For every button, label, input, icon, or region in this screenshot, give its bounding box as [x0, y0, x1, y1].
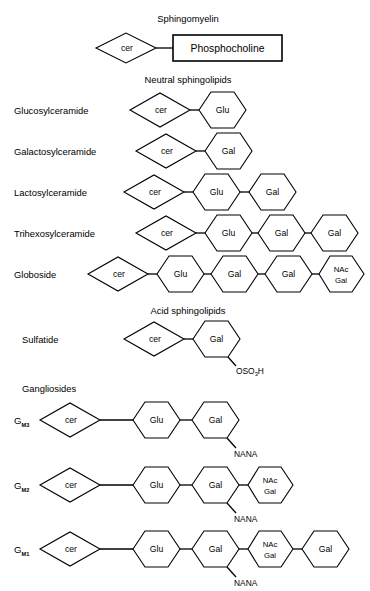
bond-substituent: [227, 438, 236, 448]
node-label-glu: Glu: [222, 228, 236, 238]
bond-substituent: [228, 357, 236, 366]
node-label-glu: Glu: [210, 187, 224, 197]
row-trihexosylceramide: Trihexosylceramide cer Glu Gal Gal: [14, 215, 358, 251]
row-label-sulfatide: Sulfatide: [22, 334, 58, 345]
nacgal-hexagon: [319, 256, 364, 292]
heading-gangliosides: Gangliosides: [22, 383, 77, 394]
node-label-cer: cer: [149, 334, 161, 344]
heading-sphingomyelin: Sphingomyelin: [157, 13, 219, 24]
row-sulfatide: Sulfatide cer Gal OSO3H: [22, 321, 264, 377]
node-label-nacgal: Gal: [264, 487, 276, 496]
node-label-nacgal: Gal: [264, 551, 276, 560]
substituent-nana: NANA: [234, 449, 258, 459]
node-label-cer: cer: [65, 415, 77, 425]
row-glucosylceramide: Glucosylceramide cer Glu: [14, 92, 246, 128]
row-sphingomyelin: cer Phosphocholine: [96, 33, 282, 63]
substituent-oso3h: OSO3H: [236, 366, 264, 377]
sphingolipid-structures-figure: Sphingomyelin cer Phosphocholine Neutral…: [0, 0, 370, 591]
row-label-gm3: GM3: [14, 415, 29, 428]
node-label-gal: Gal: [209, 480, 222, 490]
node-label-gal: Gal: [209, 415, 222, 425]
nacgal-hexagon: [248, 467, 293, 503]
row-label-trihexosylceramide: Trihexosylceramide: [14, 228, 95, 239]
row-galactosylceramide: Galactosylceramide cer Gal: [14, 133, 252, 169]
node-label-glu: Glu: [150, 415, 164, 425]
node-label-nac: NAc: [263, 540, 278, 549]
row-globoside: Globoside cer Glu Gal Gal NAc Gal: [14, 256, 364, 292]
nacgal-hexagon: [248, 531, 293, 567]
node-label-glu: Glu: [216, 105, 230, 115]
row-label-lactosylceramide: Lactosylceramide: [14, 187, 87, 198]
substituent-nana: NANA: [234, 578, 258, 588]
node-label-cer: cer: [121, 43, 133, 53]
node-label-gal: Gal: [275, 228, 288, 238]
row-label-galactosylceramide: Galactosylceramide: [14, 146, 96, 157]
bond-substituent: [227, 503, 236, 513]
node-label-gal: Gal: [266, 187, 279, 197]
node-label-cer: cer: [155, 105, 167, 115]
row-label-globoside: Globoside: [14, 269, 56, 280]
node-label-cer: cer: [65, 544, 77, 554]
node-label-nacgal: Gal: [335, 276, 347, 285]
bond-substituent: [227, 567, 236, 577]
node-label-cer: cer: [161, 228, 173, 238]
row-gm3: GM3 cer Glu Gal NANA: [14, 402, 258, 459]
row-label-gm1: GM1: [14, 544, 29, 557]
substituent-nana: NANA: [234, 514, 258, 524]
node-label-glu: Glu: [174, 269, 188, 279]
node-label-cer: cer: [149, 187, 161, 197]
heading-acid-sphingolipids: Acid sphingolipids: [150, 305, 225, 316]
node-label-gal: Gal: [209, 544, 222, 554]
row-label-gm2: GM2: [14, 480, 29, 493]
node-label-gal: Gal: [228, 269, 241, 279]
node-label-gal: Gal: [222, 146, 235, 156]
node-label-cer: cer: [161, 146, 173, 156]
node-label-glu: Glu: [150, 544, 164, 554]
node-label-cer: cer: [65, 480, 77, 490]
node-label-glu: Glu: [150, 480, 164, 490]
row-label-glucosylceramide: Glucosylceramide: [14, 105, 89, 116]
row-gm2: GM2 cer Glu Gal NAc Gal NANA: [14, 467, 293, 524]
node-label-gal: Gal: [282, 269, 295, 279]
row-gm1: GM1 cer Glu Gal NAc Gal Gal NANA: [14, 531, 349, 588]
node-label-nac: NAc: [263, 476, 278, 485]
heading-neutral-sphingolipids: Neutral sphingolipids: [144, 74, 231, 85]
node-label-gal: Gal: [319, 544, 332, 554]
node-label-phosphocholine: Phosphocholine: [191, 43, 265, 54]
node-label-cer: cer: [113, 269, 125, 279]
node-label-gal: Gal: [328, 228, 341, 238]
node-label-nac: NAc: [334, 265, 349, 274]
row-lactosylceramide: Lactosylceramide cer Glu Gal: [14, 174, 296, 210]
node-label-gal: Gal: [210, 334, 223, 344]
